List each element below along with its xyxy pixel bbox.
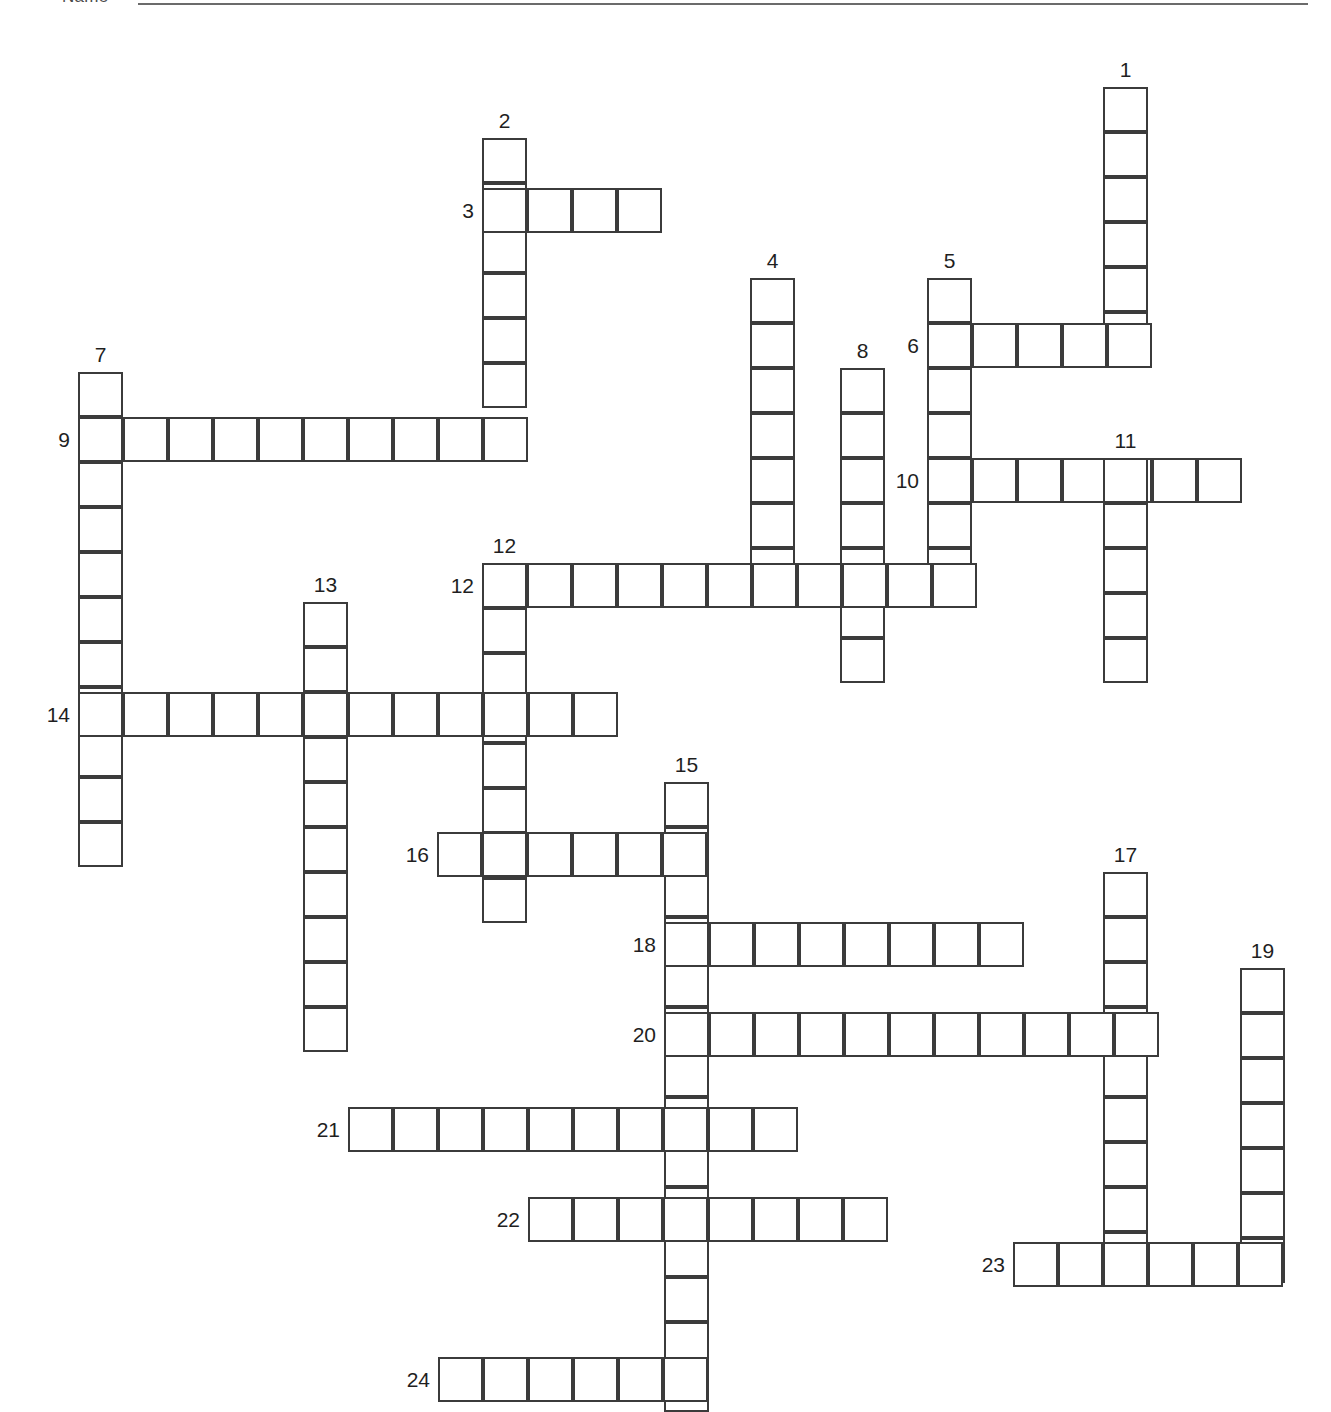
- crossword-cell[interactable]: [1103, 1097, 1148, 1142]
- crossword-cell[interactable]: [840, 503, 885, 548]
- crossword-cell[interactable]: [927, 503, 972, 548]
- crossword-cell[interactable]: [799, 922, 844, 967]
- crossword-cell[interactable]: [483, 417, 528, 462]
- crossword-cell[interactable]: [750, 368, 795, 413]
- crossword-cell[interactable]: [123, 692, 168, 737]
- crossword-cell[interactable]: [927, 368, 972, 413]
- crossword-cell[interactable]: [573, 1357, 618, 1402]
- crossword-cell[interactable]: [1114, 1012, 1159, 1057]
- crossword-cell[interactable]: [662, 563, 707, 608]
- crossword-cell[interactable]: [1103, 1242, 1148, 1287]
- crossword-cell[interactable]: [78, 552, 123, 597]
- crossword-cell[interactable]: [1103, 1052, 1148, 1097]
- crossword-cell[interactable]: [798, 1197, 843, 1242]
- crossword-cell[interactable]: [664, 1012, 709, 1057]
- crossword-cell[interactable]: [663, 1107, 708, 1152]
- crossword-cell[interactable]: [709, 1012, 754, 1057]
- crossword-cell[interactable]: [482, 832, 527, 877]
- crossword-cell[interactable]: [707, 563, 752, 608]
- crossword-cell[interactable]: [1103, 638, 1148, 683]
- crossword-cell[interactable]: [78, 692, 123, 737]
- crossword-cell[interactable]: [123, 417, 168, 462]
- crossword-cell[interactable]: [1240, 1058, 1285, 1103]
- crossword-cell[interactable]: [889, 1012, 934, 1057]
- crossword-cell[interactable]: [972, 458, 1017, 503]
- crossword-cell[interactable]: [664, 922, 709, 967]
- crossword-cell[interactable]: [78, 597, 123, 642]
- crossword-cell[interactable]: [1238, 1242, 1283, 1287]
- crossword-cell[interactable]: [617, 563, 662, 608]
- crossword-cell[interactable]: [483, 1107, 528, 1152]
- crossword-cell[interactable]: [664, 1277, 709, 1322]
- crossword-cell[interactable]: [797, 563, 842, 608]
- crossword-cell[interactable]: [348, 692, 393, 737]
- crossword-cell[interactable]: [1103, 267, 1148, 312]
- crossword-cell[interactable]: [750, 458, 795, 503]
- crossword-cell[interactable]: [1103, 872, 1148, 917]
- crossword-cell[interactable]: [348, 1107, 393, 1152]
- crossword-cell[interactable]: [573, 692, 618, 737]
- crossword-cell[interactable]: [843, 1197, 888, 1242]
- crossword-cell[interactable]: [1193, 1242, 1238, 1287]
- crossword-cell[interactable]: [932, 563, 977, 608]
- crossword-cell[interactable]: [752, 563, 797, 608]
- crossword-cell[interactable]: [840, 413, 885, 458]
- crossword-cell[interactable]: [664, 782, 709, 827]
- crossword-cell[interactable]: [303, 737, 348, 782]
- crossword-cell[interactable]: [213, 692, 258, 737]
- crossword-cell[interactable]: [482, 138, 527, 183]
- crossword-cell[interactable]: [754, 922, 799, 967]
- crossword-cell[interactable]: [303, 962, 348, 1007]
- crossword-cell[interactable]: [303, 782, 348, 827]
- crossword-cell[interactable]: [750, 278, 795, 323]
- crossword-cell[interactable]: [78, 732, 123, 777]
- crossword-cell[interactable]: [1017, 458, 1062, 503]
- crossword-cell[interactable]: [1103, 548, 1148, 593]
- crossword-cell[interactable]: [78, 417, 123, 462]
- crossword-cell[interactable]: [482, 188, 527, 233]
- crossword-cell[interactable]: [840, 638, 885, 683]
- crossword-cell[interactable]: [438, 1357, 483, 1402]
- crossword-cell[interactable]: [78, 507, 123, 552]
- crossword-cell[interactable]: [303, 692, 348, 737]
- crossword-cell[interactable]: [258, 417, 303, 462]
- crossword-cell[interactable]: [78, 642, 123, 687]
- crossword-cell[interactable]: [393, 417, 438, 462]
- crossword-cell[interactable]: [1103, 1142, 1148, 1187]
- crossword-cell[interactable]: [1103, 503, 1148, 548]
- crossword-cell[interactable]: [78, 777, 123, 822]
- crossword-cell[interactable]: [618, 1357, 663, 1402]
- crossword-cell[interactable]: [1069, 1012, 1114, 1057]
- crossword-cell[interactable]: [573, 1197, 618, 1242]
- crossword-cell[interactable]: [1152, 458, 1197, 503]
- crossword-cell[interactable]: [213, 417, 258, 462]
- crossword-cell[interactable]: [437, 832, 482, 877]
- crossword-cell[interactable]: [1103, 132, 1148, 177]
- crossword-cell[interactable]: [303, 1007, 348, 1052]
- crossword-cell[interactable]: [934, 1012, 979, 1057]
- crossword-cell[interactable]: [708, 1197, 753, 1242]
- crossword-cell[interactable]: [1103, 962, 1148, 1007]
- crossword-cell[interactable]: [528, 1197, 573, 1242]
- crossword-cell[interactable]: [842, 563, 887, 608]
- crossword-cell[interactable]: [1103, 87, 1148, 132]
- crossword-cell[interactable]: [348, 417, 393, 462]
- crossword-cell[interactable]: [617, 188, 662, 233]
- crossword-cell[interactable]: [927, 413, 972, 458]
- crossword-cell[interactable]: [438, 692, 483, 737]
- crossword-cell[interactable]: [528, 692, 573, 737]
- crossword-cell[interactable]: [528, 1107, 573, 1152]
- crossword-cell[interactable]: [1062, 458, 1107, 503]
- crossword-cell[interactable]: [482, 318, 527, 363]
- crossword-cell[interactable]: [1240, 1193, 1285, 1238]
- crossword-cell[interactable]: [979, 1012, 1024, 1057]
- crossword-cell[interactable]: [1148, 1242, 1193, 1287]
- crossword-cell[interactable]: [887, 563, 932, 608]
- crossword-cell[interactable]: [799, 1012, 844, 1057]
- crossword-cell[interactable]: [78, 822, 123, 867]
- crossword-grid[interactable]: 1234567891011121213141516171819202122232…: [0, 0, 1331, 1412]
- crossword-cell[interactable]: [708, 1107, 753, 1152]
- crossword-cell[interactable]: [303, 872, 348, 917]
- crossword-cell[interactable]: [664, 962, 709, 1007]
- crossword-cell[interactable]: [1062, 323, 1107, 368]
